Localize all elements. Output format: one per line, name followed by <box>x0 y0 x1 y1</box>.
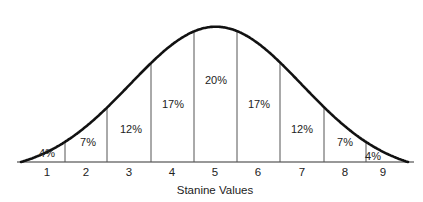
percent-label: 4% <box>365 150 381 162</box>
x-tick-label: 1 <box>44 166 50 178</box>
percent-label: 12% <box>291 123 313 135</box>
percent-label: 7% <box>80 136 96 148</box>
stanine-normal-curve-chart: 4%7%12%17%20%17%12%7%4% 123456789 Stanin… <box>0 0 423 202</box>
percent-labels: 4%7%12%17%20%17%12%7%4% <box>39 74 381 162</box>
x-tick-label: 7 <box>299 166 305 178</box>
percent-label: 17% <box>162 98 184 110</box>
x-tick-label: 4 <box>169 166 176 178</box>
x-tick-label: 8 <box>342 166 348 178</box>
percent-label: 4% <box>39 147 55 159</box>
stanine-dividers <box>65 31 366 162</box>
x-tick-label: 2 <box>83 166 89 178</box>
x-tick-labels: 123456789 <box>44 166 386 178</box>
x-tick-label: 3 <box>126 166 132 178</box>
x-axis-title: Stanine Values <box>177 184 254 196</box>
x-tick-label: 9 <box>380 166 386 178</box>
percent-label: 17% <box>248 98 270 110</box>
x-tick-label: 6 <box>255 166 261 178</box>
x-tick-label: 5 <box>212 166 218 178</box>
percent-label: 12% <box>120 123 142 135</box>
percent-label: 7% <box>337 136 353 148</box>
percent-label: 20% <box>205 74 227 86</box>
